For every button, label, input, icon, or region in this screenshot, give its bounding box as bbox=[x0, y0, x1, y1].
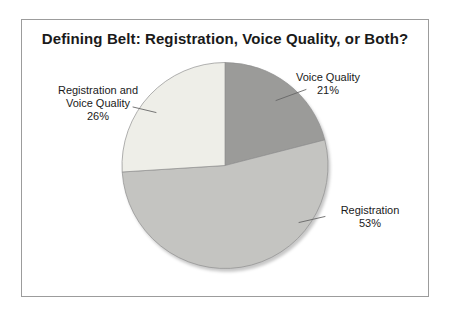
pie-chart bbox=[0, 0, 449, 314]
slice-label-registration: Registration 53% bbox=[341, 204, 400, 230]
slice-label-voice-quality: Voice Quality 21% bbox=[296, 71, 360, 97]
slice-label-registration-and-voice-quality: Registration and Voice Quality 26% bbox=[58, 84, 138, 123]
